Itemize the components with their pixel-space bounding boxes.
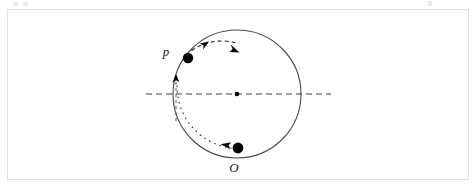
dashed-motion-arc <box>186 41 237 55</box>
left-arrowhead-icon <box>221 142 232 149</box>
up-right-arrowhead-icon <box>200 42 209 50</box>
dotted-trajectory-arc <box>177 86 231 148</box>
up-arrowhead-icon <box>172 74 179 82</box>
down-right-arrowhead-icon <box>229 45 239 53</box>
label-point-p: p <box>162 44 170 59</box>
label-point-o: O <box>229 160 239 175</box>
particle-p <box>183 53 193 63</box>
particle-o <box>233 143 244 154</box>
figure-page: p O <box>0 0 476 189</box>
center-dot <box>235 92 240 97</box>
circular-motion-diagram: p O <box>0 0 476 189</box>
